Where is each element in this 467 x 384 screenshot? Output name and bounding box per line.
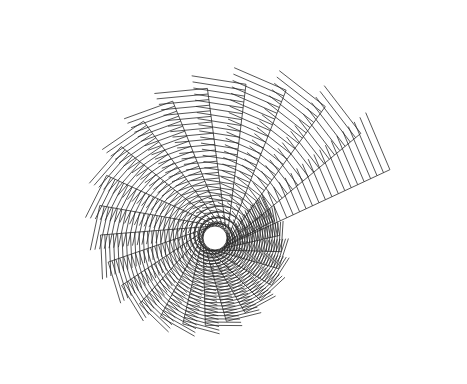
arm-hatch bbox=[244, 267, 263, 285]
arm-hatch bbox=[162, 156, 195, 168]
arm-hatch bbox=[179, 150, 215, 154]
arm-hatch bbox=[232, 277, 255, 289]
arm-hatch bbox=[145, 131, 185, 146]
arm-hatch bbox=[227, 125, 266, 142]
arm-hatch bbox=[115, 134, 153, 160]
arm-hatch bbox=[165, 161, 197, 173]
arm-hatch bbox=[331, 141, 351, 188]
arm-hatch bbox=[154, 88, 207, 93]
arm-hatch bbox=[204, 168, 235, 173]
arm-hatch bbox=[196, 106, 242, 113]
arm-hatch bbox=[189, 297, 217, 305]
arm-hatch bbox=[308, 108, 340, 150]
arm-hatch bbox=[316, 97, 351, 142]
arm-hatch bbox=[295, 126, 324, 164]
arm-hatch bbox=[179, 181, 205, 191]
arm-hatch bbox=[148, 136, 187, 150]
arm-hatch bbox=[245, 296, 276, 313]
arm-hatch bbox=[264, 108, 302, 138]
arm-hatch bbox=[366, 113, 390, 170]
arm-hatch bbox=[200, 137, 239, 143]
arm-hatch bbox=[188, 301, 217, 309]
arm-hatch bbox=[102, 121, 143, 149]
arm-hatch bbox=[187, 304, 218, 312]
arm-hatch bbox=[276, 239, 286, 268]
arm-hatch bbox=[279, 239, 289, 269]
arm-hatch bbox=[136, 154, 168, 176]
arm-hatch bbox=[126, 233, 128, 270]
spiral-arms bbox=[86, 68, 390, 337]
arm-hatch bbox=[272, 90, 314, 123]
arm-hatch bbox=[228, 119, 268, 136]
arm-hatch bbox=[261, 171, 282, 198]
arm-hatch bbox=[123, 168, 148, 197]
arm-hatch bbox=[135, 232, 137, 266]
arm-hatch bbox=[226, 138, 261, 153]
arm-hatch bbox=[191, 291, 217, 298]
arm-hatch bbox=[299, 120, 329, 160]
arm-hatch bbox=[141, 126, 183, 141]
arm-hatch bbox=[270, 160, 293, 190]
arm-hatch bbox=[190, 294, 217, 301]
arm-hatch bbox=[297, 168, 313, 205]
arm-hatch bbox=[274, 83, 317, 117]
arm-hatch bbox=[175, 139, 214, 143]
arm-hatch bbox=[177, 144, 215, 148]
arm-hatch bbox=[95, 206, 104, 249]
arm-hatch bbox=[360, 117, 384, 172]
arm-hatch bbox=[148, 268, 165, 295]
arm-hatch bbox=[175, 202, 190, 220]
arm-hatch bbox=[145, 163, 174, 183]
arm-hatch bbox=[257, 177, 277, 203]
arm-hatch bbox=[227, 132, 264, 148]
arm-hatch bbox=[314, 155, 332, 197]
arm-hatch bbox=[90, 206, 100, 251]
arm-hatch bbox=[260, 255, 275, 279]
arm-hatch bbox=[267, 102, 306, 133]
arm-hatch bbox=[229, 113, 270, 131]
arm-hatch bbox=[197, 113, 242, 120]
arm-hatch bbox=[162, 314, 195, 333]
arm-hatch bbox=[257, 200, 268, 224]
arm-hatch bbox=[291, 131, 319, 168]
arm-hatch bbox=[182, 156, 217, 159]
arm-hatch bbox=[201, 143, 238, 149]
arm-hatch bbox=[127, 171, 152, 199]
arm-hatch bbox=[225, 145, 259, 160]
arm-hatch bbox=[236, 205, 250, 224]
arm-hatch bbox=[128, 212, 135, 246]
arm-hatch bbox=[139, 232, 140, 265]
arm-hatch bbox=[205, 174, 234, 179]
arm-hatch bbox=[130, 233, 132, 268]
arm-hatch bbox=[124, 101, 173, 119]
arm-hatch bbox=[157, 94, 208, 99]
arm-hatch bbox=[233, 279, 257, 292]
arm-hatch bbox=[223, 164, 252, 177]
arm-hatch bbox=[237, 178, 260, 196]
arm-hatch bbox=[187, 307, 219, 316]
arm-hatch bbox=[170, 199, 186, 218]
arm-hatch bbox=[303, 114, 334, 155]
arm-hatch bbox=[202, 149, 237, 155]
arm-hatch bbox=[132, 175, 156, 202]
arm-hatch bbox=[195, 100, 243, 108]
arm-hatch bbox=[320, 150, 339, 194]
arm-hatch bbox=[132, 150, 165, 173]
arm-hatch bbox=[312, 103, 346, 147]
spiral-line-art bbox=[0, 0, 467, 384]
arm-hatch bbox=[269, 96, 310, 128]
center-hole bbox=[203, 226, 227, 250]
arm-hatch bbox=[320, 91, 356, 137]
arm-hatch bbox=[325, 145, 344, 191]
arm-hatch bbox=[107, 125, 147, 153]
arm-hatch bbox=[141, 159, 172, 180]
arm-hatch bbox=[141, 273, 159, 302]
arm-hatch bbox=[234, 68, 286, 91]
arm-hatch bbox=[160, 317, 194, 336]
arm-hatch bbox=[128, 255, 139, 290]
